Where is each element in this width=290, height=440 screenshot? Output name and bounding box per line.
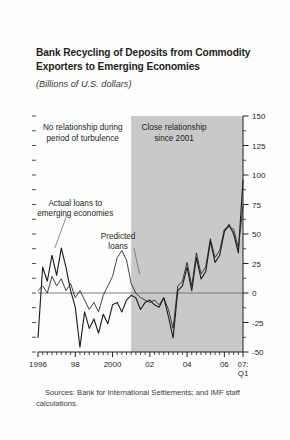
y-tick-label: 50 <box>252 230 261 239</box>
line-chart: -50-250255075100125150199698200002040607… <box>0 108 290 378</box>
y-tick-label: 0 <box>252 289 257 298</box>
predicted-label: loans <box>108 242 128 251</box>
y-tick-label: -50 <box>252 348 264 357</box>
y-tick-label: 150 <box>252 112 266 121</box>
left-annotation: No relationship during <box>43 123 123 132</box>
chart-subtitle: (Billions of U.S. dollars) <box>36 78 260 90</box>
x-tick-label: Q1 <box>238 369 249 378</box>
right-annotation: Close relationship <box>141 123 207 132</box>
actual-label: Actual loans to <box>48 199 102 208</box>
x-tick-label: 06 <box>220 360 229 369</box>
page-title: Bank Recycling of Deposits from Commodit… <box>36 46 260 73</box>
y-tick-label: 75 <box>252 201 261 210</box>
predicted-label: Predicted <box>101 232 136 241</box>
x-tick-label: 1996 <box>29 360 47 369</box>
actual-label: emerging economies <box>37 209 113 218</box>
figure-container: Bank Recycling of Deposits from Commodit… <box>0 0 290 440</box>
y-tick-label: 100 <box>252 171 266 180</box>
x-tick-label: 98 <box>71 360 80 369</box>
source-note: Sources: Bank for International Settleme… <box>36 388 262 409</box>
x-tick-label: 04 <box>183 360 192 369</box>
shaded-region <box>131 116 243 352</box>
x-tick-label: 02 <box>145 360 154 369</box>
y-tick-label: 25 <box>252 260 261 269</box>
y-tick-label: 125 <box>252 142 266 151</box>
actual-leader <box>55 215 67 248</box>
y-tick-label: -25 <box>252 319 264 328</box>
right-annotation: since 2001 <box>154 134 194 143</box>
x-tick-label: 07: <box>237 360 248 369</box>
title-block: Bank Recycling of Deposits from Commodit… <box>36 46 260 90</box>
left-annotation: period of turbulence <box>47 134 120 143</box>
x-tick-label: 2000 <box>104 360 122 369</box>
plot-area: -50-250255075100125150199698200002040607… <box>0 108 290 378</box>
